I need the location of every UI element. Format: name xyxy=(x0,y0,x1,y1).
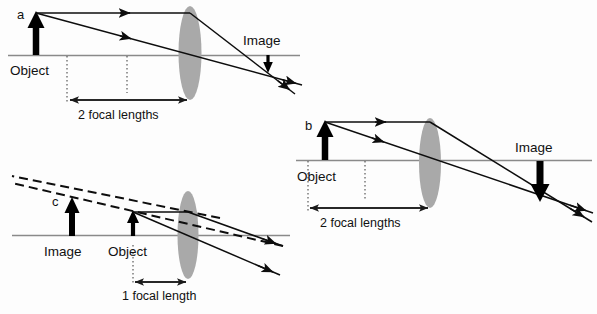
object-arrow-a xyxy=(28,11,45,55)
object-label-a: Object xyxy=(10,63,49,78)
center-ray-c xyxy=(133,212,280,275)
center-ray-mid-arrowhead-b xyxy=(372,138,384,142)
object-label-b: Object xyxy=(297,169,336,184)
center-ray-arrowhead-c xyxy=(258,266,273,272)
refracted-ray-arrowhead-a xyxy=(278,81,290,90)
diagram-b: b Object Image 2 focal lengths xyxy=(296,118,593,230)
optics-figure: a Object Image 2 focal lengths xyxy=(0,0,597,314)
image-label-c: Image xyxy=(44,244,82,259)
image-arrow-c xyxy=(65,197,80,236)
diagram-letter-a: a xyxy=(17,7,25,22)
image-label-b: Image xyxy=(515,140,553,155)
center-ray-b xyxy=(325,122,593,213)
image-label-a: Image xyxy=(243,33,281,48)
distance-label-c: 1 focal length xyxy=(122,289,196,303)
center-ray-mid-arrowhead-a xyxy=(120,36,131,39)
refracted-ray-b xyxy=(430,122,592,222)
distance-label-b: 2 focal lengths xyxy=(320,216,401,230)
virtual-ray-extension-c-1 xyxy=(12,183,283,246)
diagram-c: c Image Object 1 focal length xyxy=(12,176,290,303)
object-label-c: Object xyxy=(108,244,147,259)
ray-diagram-canvas: a Object Image 2 focal lengths xyxy=(0,0,597,314)
center-ray-arrowhead-a xyxy=(282,80,296,84)
diagram-a: a Object Image 2 focal lengths xyxy=(8,6,302,122)
diagram-letter-b: b xyxy=(305,118,312,133)
object-arrow-b xyxy=(317,120,334,160)
distance-label-a: 2 focal lengths xyxy=(78,108,159,122)
converging-lens-b xyxy=(419,118,441,208)
image-arrow-b xyxy=(531,161,550,202)
diagram-letter-c: c xyxy=(52,194,59,209)
center-ray-a xyxy=(36,13,302,85)
